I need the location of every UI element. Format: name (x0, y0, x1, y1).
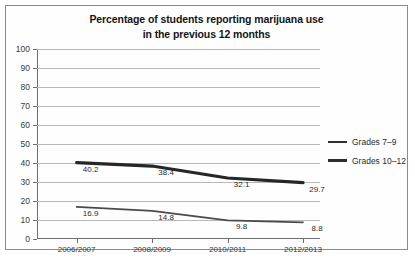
x-axis-tick-label: 2010/2011 (209, 245, 246, 254)
legend-label-grades-7-9: Grades 7–9 (352, 137, 396, 147)
x-axis-tick-label: 2006/2007 (58, 245, 96, 254)
series-line (77, 163, 303, 183)
legend-item-grades-7-9: Grades 7–9 (328, 132, 414, 151)
y-axis-tick-label: 80 (21, 82, 30, 92)
y-axis-tick-label: 70 (21, 101, 30, 111)
y-axis-tick-label: 60 (21, 120, 30, 130)
chart-container: Percentage of students reporting marijua… (5, 5, 408, 250)
y-axis-tick-label: 20 (21, 196, 30, 206)
y-axis-tick-label: 90 (21, 63, 30, 73)
chart-legend: Grades 7–9 Grades 10–12 (328, 132, 414, 170)
chart-title-line-1: Percentage of students reporting marijua… (6, 12, 407, 27)
x-axis-tick-label: 2012/2013 (284, 245, 322, 254)
plot-area: 0102030405060708090100 2006/20072008/200… (37, 49, 320, 239)
chart-title-line-2: in the previous 12 months (6, 27, 407, 42)
y-axis-tick-label: 100 (16, 44, 30, 54)
series-line (77, 207, 303, 222)
y-axis-tick-label: 10 (21, 215, 30, 225)
y-axis-tick-label: 30 (21, 177, 30, 187)
legend-item-grades-10-12: Grades 10–12 (328, 151, 414, 170)
chart-title: Percentage of students reporting marijua… (6, 12, 407, 42)
x-axis-tick (77, 239, 78, 243)
legend-line-icon-grades-10-12 (328, 159, 347, 163)
x-axis-tick (228, 239, 229, 243)
x-axis-tick-label: 2008/2009 (133, 245, 171, 254)
y-axis-tick (33, 239, 37, 240)
y-axis-tick-label: 50 (21, 139, 30, 149)
y-axis-tick-label: 40 (21, 158, 30, 168)
legend-label-grades-10-12: Grades 10–12 (352, 156, 406, 166)
x-axis-tick (303, 239, 304, 243)
series-lines (37, 49, 320, 239)
y-axis-tick-label: 0 (25, 234, 30, 244)
x-axis-tick (152, 239, 153, 243)
legend-line-icon-grades-7-9 (328, 141, 347, 143)
